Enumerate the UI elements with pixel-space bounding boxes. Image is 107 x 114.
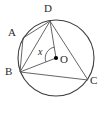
center-point-dot — [54, 56, 58, 60]
chord-b-d — [20, 21, 50, 72]
point-label-b: B — [5, 66, 12, 77]
radius-o-d — [50, 21, 56, 58]
angle-arc-x — [45, 47, 54, 62]
point-label-a: A — [8, 27, 16, 38]
point-label-c: C — [90, 75, 97, 86]
radius-o-b — [20, 58, 56, 72]
point-label-d: D — [44, 3, 52, 14]
geometry-canvas — [0, 0, 107, 114]
chord-b-c — [20, 72, 88, 80]
chord-a-d — [23, 21, 50, 38]
geometry-figure: A B C D O x — [0, 0, 107, 114]
angle-label-x: x — [38, 47, 42, 57]
center-label-o: O — [60, 54, 68, 65]
